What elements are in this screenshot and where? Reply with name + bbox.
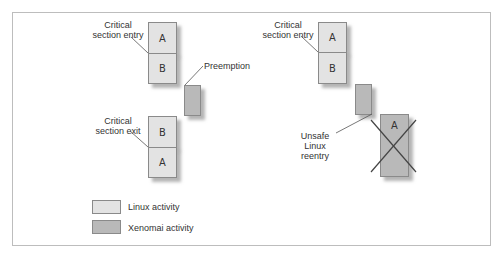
legend-label-xenomai: Xenomai activity [128, 223, 194, 233]
legend-label-linux: Linux activity [128, 202, 180, 212]
crossed-linux-box: A [380, 114, 409, 177]
left-exit-label-line2: section exit [88, 126, 148, 136]
left-entry-label: Critical section entry [88, 20, 148, 40]
diagram-frame [12, 12, 491, 246]
left-box-a-bottom: A [148, 147, 177, 178]
legend-swatch-linux [92, 200, 121, 214]
left-xenomai-box [184, 85, 201, 116]
right-box-a-top: A [318, 22, 347, 53]
box-letter: A [159, 156, 166, 169]
right-entry-label: Critical section entry [258, 20, 318, 40]
right-entry-label-line1: Critical [258, 20, 318, 30]
left-exit-label: Critical section exit [88, 116, 148, 136]
left-box-b-bottom: B [148, 116, 177, 148]
box-letter: A [329, 31, 336, 44]
right-box-b-top: B [318, 52, 347, 84]
legend-swatch-xenomai [92, 220, 121, 234]
unsafe-reentry-label-line2: reentry [290, 151, 340, 161]
left-exit-label-line1: Critical [88, 116, 148, 126]
unsafe-reentry-label-line1: Unsafe Linux [290, 131, 340, 151]
box-letter: B [159, 62, 166, 75]
box-letter: A [381, 119, 408, 132]
preemption-label: Preemption [204, 61, 250, 71]
unsafe-reentry-label: Unsafe Linux reentry [290, 131, 340, 161]
box-letter: B [329, 62, 336, 75]
left-entry-label-line1: Critical [88, 20, 148, 30]
right-entry-label-line2: section entry [258, 30, 318, 40]
left-box-b-top: B [148, 53, 177, 84]
right-xenomai-box [355, 84, 372, 115]
box-letter: A [159, 32, 166, 45]
left-entry-label-line2: section entry [88, 30, 148, 40]
left-box-a-top: A [148, 22, 177, 54]
box-letter: B [159, 126, 166, 139]
